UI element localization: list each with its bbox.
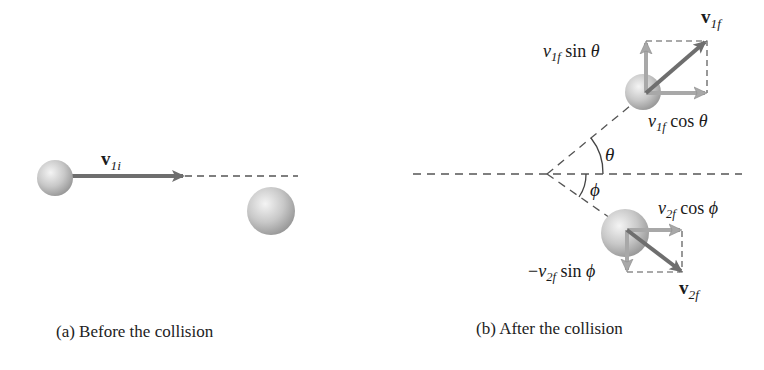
label-v1f-sin-theta: v1f sin θ xyxy=(543,41,600,65)
panel-b xyxy=(413,41,742,272)
caption-panel-b: (b) After the collision xyxy=(476,319,623,339)
label-theta: θ xyxy=(605,144,614,166)
theta-arc xyxy=(591,138,603,174)
label-v2f-cos-phi: v2f cos ϕ xyxy=(658,198,718,222)
label-v1i: v1i xyxy=(101,148,121,174)
ball-1-initial xyxy=(37,160,73,196)
collision-diagram xyxy=(0,0,764,370)
caption-panel-a: (a) Before the collision xyxy=(56,322,213,342)
v1f-velocity-arrow xyxy=(646,42,705,93)
label-neg-v2f-sin-phi: −v2f sin ϕ xyxy=(528,261,595,285)
panel-a xyxy=(37,160,298,235)
label-v2f: v2f xyxy=(679,277,699,303)
label-v1f-cos-theta: v1f cos θ xyxy=(648,111,708,135)
ball1-trajectory-line xyxy=(547,106,630,174)
label-phi: ϕ xyxy=(590,179,600,201)
ball-2-initial xyxy=(247,187,295,235)
label-v1f: v1f xyxy=(701,6,721,32)
ball2-trajectory-line xyxy=(547,174,610,218)
phi-arc xyxy=(579,174,586,197)
